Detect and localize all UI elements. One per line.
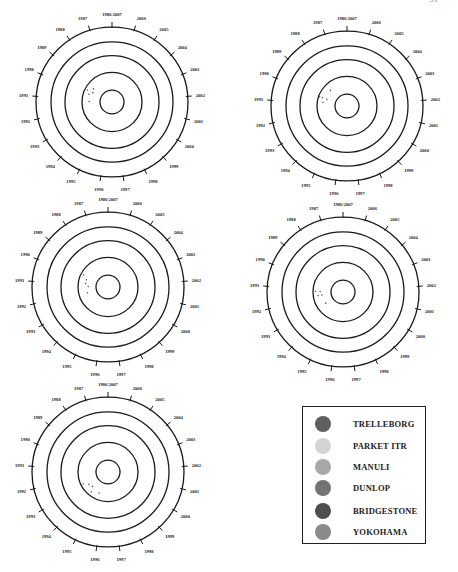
tick-label: 1994	[281, 168, 291, 173]
legend-item-manuli: MANULI	[315, 458, 390, 476]
tick-label: 2006	[133, 386, 143, 391]
ring-1	[267, 217, 419, 367]
tick-label: 1991	[250, 283, 260, 288]
tick-label: 1987	[309, 206, 319, 211]
tick-label: 2000	[420, 148, 430, 153]
tick-label: 1997	[117, 372, 127, 377]
tick-label: 1988	[51, 212, 61, 217]
tick-label: 2004	[174, 230, 184, 235]
tick-label: 1991	[15, 463, 25, 468]
tick-label: 1998	[148, 179, 158, 184]
tick-label: 1990	[256, 257, 266, 262]
tick-label: 1995	[301, 183, 311, 188]
tick-label: 1998	[379, 369, 389, 374]
tick-label: 2000	[416, 334, 426, 339]
ring-4	[82, 72, 142, 131]
tick-label: 1990	[260, 71, 270, 76]
tick-label: 2005	[159, 27, 169, 32]
tick-label: 2003	[186, 437, 196, 442]
tick-mark	[34, 118, 40, 119]
data-point	[330, 90, 332, 92]
legend: TRELLEBORG PARKET ITR MANULI DUNLOP BRID…	[302, 406, 426, 544]
tick-label: 1992	[252, 309, 262, 314]
tick-label: 1996	[94, 187, 104, 192]
tick-label: 1993	[26, 329, 36, 334]
tick-label: 2003	[425, 71, 435, 76]
tick-label: 1992	[17, 304, 27, 309]
tick-label: 2001	[429, 123, 439, 128]
tick-label: 1999	[169, 164, 179, 169]
tick-label: 2001	[190, 304, 200, 309]
legend-swatch-icon	[315, 480, 331, 496]
tick-label: 1989	[272, 49, 282, 54]
tick-label: 2004	[409, 235, 419, 240]
tick-mark	[415, 308, 421, 309]
data-point	[88, 101, 90, 103]
ring-4	[78, 442, 138, 501]
tick-label: 1987	[313, 20, 323, 25]
tick-label: 1990	[21, 252, 31, 257]
legend-swatch-icon	[315, 524, 331, 540]
tick-label: 1994	[42, 349, 52, 354]
tick-mark	[184, 118, 190, 119]
tick-mark	[419, 122, 425, 123]
data-point	[82, 483, 84, 485]
tick-label: 1995	[66, 179, 76, 184]
ring-3	[65, 56, 159, 149]
tick-label: 2002	[427, 283, 437, 288]
data-point	[85, 283, 87, 285]
data-point	[98, 492, 100, 494]
tick-label: 2001	[425, 309, 435, 314]
data-point	[87, 89, 89, 91]
legend-swatch-icon	[315, 416, 331, 432]
tick-label: 2005	[394, 31, 404, 36]
tick-mark	[30, 488, 36, 489]
legend-label: BRIDGESTONE	[353, 506, 417, 516]
tick-label: 2001	[190, 489, 200, 494]
data-point	[322, 101, 324, 103]
tick-label: 1987	[74, 201, 84, 206]
ring-3	[61, 241, 155, 334]
tick-label: 1990	[21, 437, 31, 442]
tick-label: 1988	[55, 27, 65, 32]
tick-label: 2006	[368, 206, 378, 211]
data-point	[319, 96, 321, 98]
data-point	[86, 279, 88, 281]
legend-item-dunlop: DUNLOP	[315, 479, 390, 497]
tick-mark	[180, 303, 186, 304]
tick-label: 2001	[194, 119, 204, 124]
tick-label: 1997	[121, 187, 131, 192]
data-point	[92, 92, 94, 94]
data-point	[88, 484, 90, 486]
tick-label: 1996	[90, 557, 100, 562]
tick-label: 1997	[117, 557, 127, 562]
ring-4	[317, 76, 377, 135]
tick-label: 1992	[256, 123, 266, 128]
data-point	[315, 291, 317, 293]
ring-3	[61, 426, 155, 519]
legend-swatch-icon	[315, 503, 331, 519]
tick-label: 1998	[144, 364, 154, 369]
ring-1	[32, 397, 184, 547]
tick-label: 1998	[383, 183, 393, 188]
tick-label: 2005	[155, 212, 165, 217]
tick-label: 2002	[192, 278, 202, 283]
tick-label: 1986/2007	[98, 382, 118, 387]
tick-label: 1986/2007	[102, 12, 122, 17]
ring-5	[335, 94, 359, 118]
tick-label: 1999	[165, 349, 175, 354]
tick-label: 1986/2007	[337, 16, 357, 21]
tick-label: 1991	[19, 93, 29, 98]
legend-item-parket-itr: PARKET ITR	[315, 437, 407, 455]
tick-label: 1986/2007	[333, 202, 353, 207]
polar-chart-5: 1986/20072006200520042003200220012000199…	[15, 382, 202, 562]
polar-chart-4: 1986/20072006200520042003200220012000199…	[250, 202, 437, 382]
polar-chart-3: 1986/20072006200520042003200220012000199…	[15, 197, 202, 377]
ring-5	[331, 280, 355, 304]
data-point	[87, 292, 89, 294]
tick-label: 2000	[181, 514, 191, 519]
data-point	[92, 486, 94, 488]
legend-swatch-icon	[315, 438, 331, 454]
tick-label: 2002	[192, 463, 202, 468]
legend-item-trelleborg: TRELLEBORG	[315, 415, 415, 433]
